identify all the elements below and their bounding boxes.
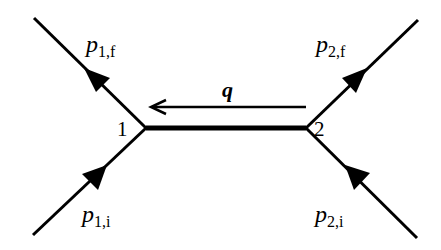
label-p1i: p1,i [80,201,111,230]
label-p1f: p1,f [84,31,116,60]
vertex-label-2: 2 [314,117,325,141]
label-p2i: p2,i [313,201,344,230]
label-p2f: p2,f [314,31,346,60]
momentum-arrow-q [151,100,306,114]
feynman-diagram: q 1 2 p1,f p2,f p1,i p2,i [0,0,441,250]
propagator-label: q [222,77,233,102]
vertex-label-1: 1 [117,117,128,141]
